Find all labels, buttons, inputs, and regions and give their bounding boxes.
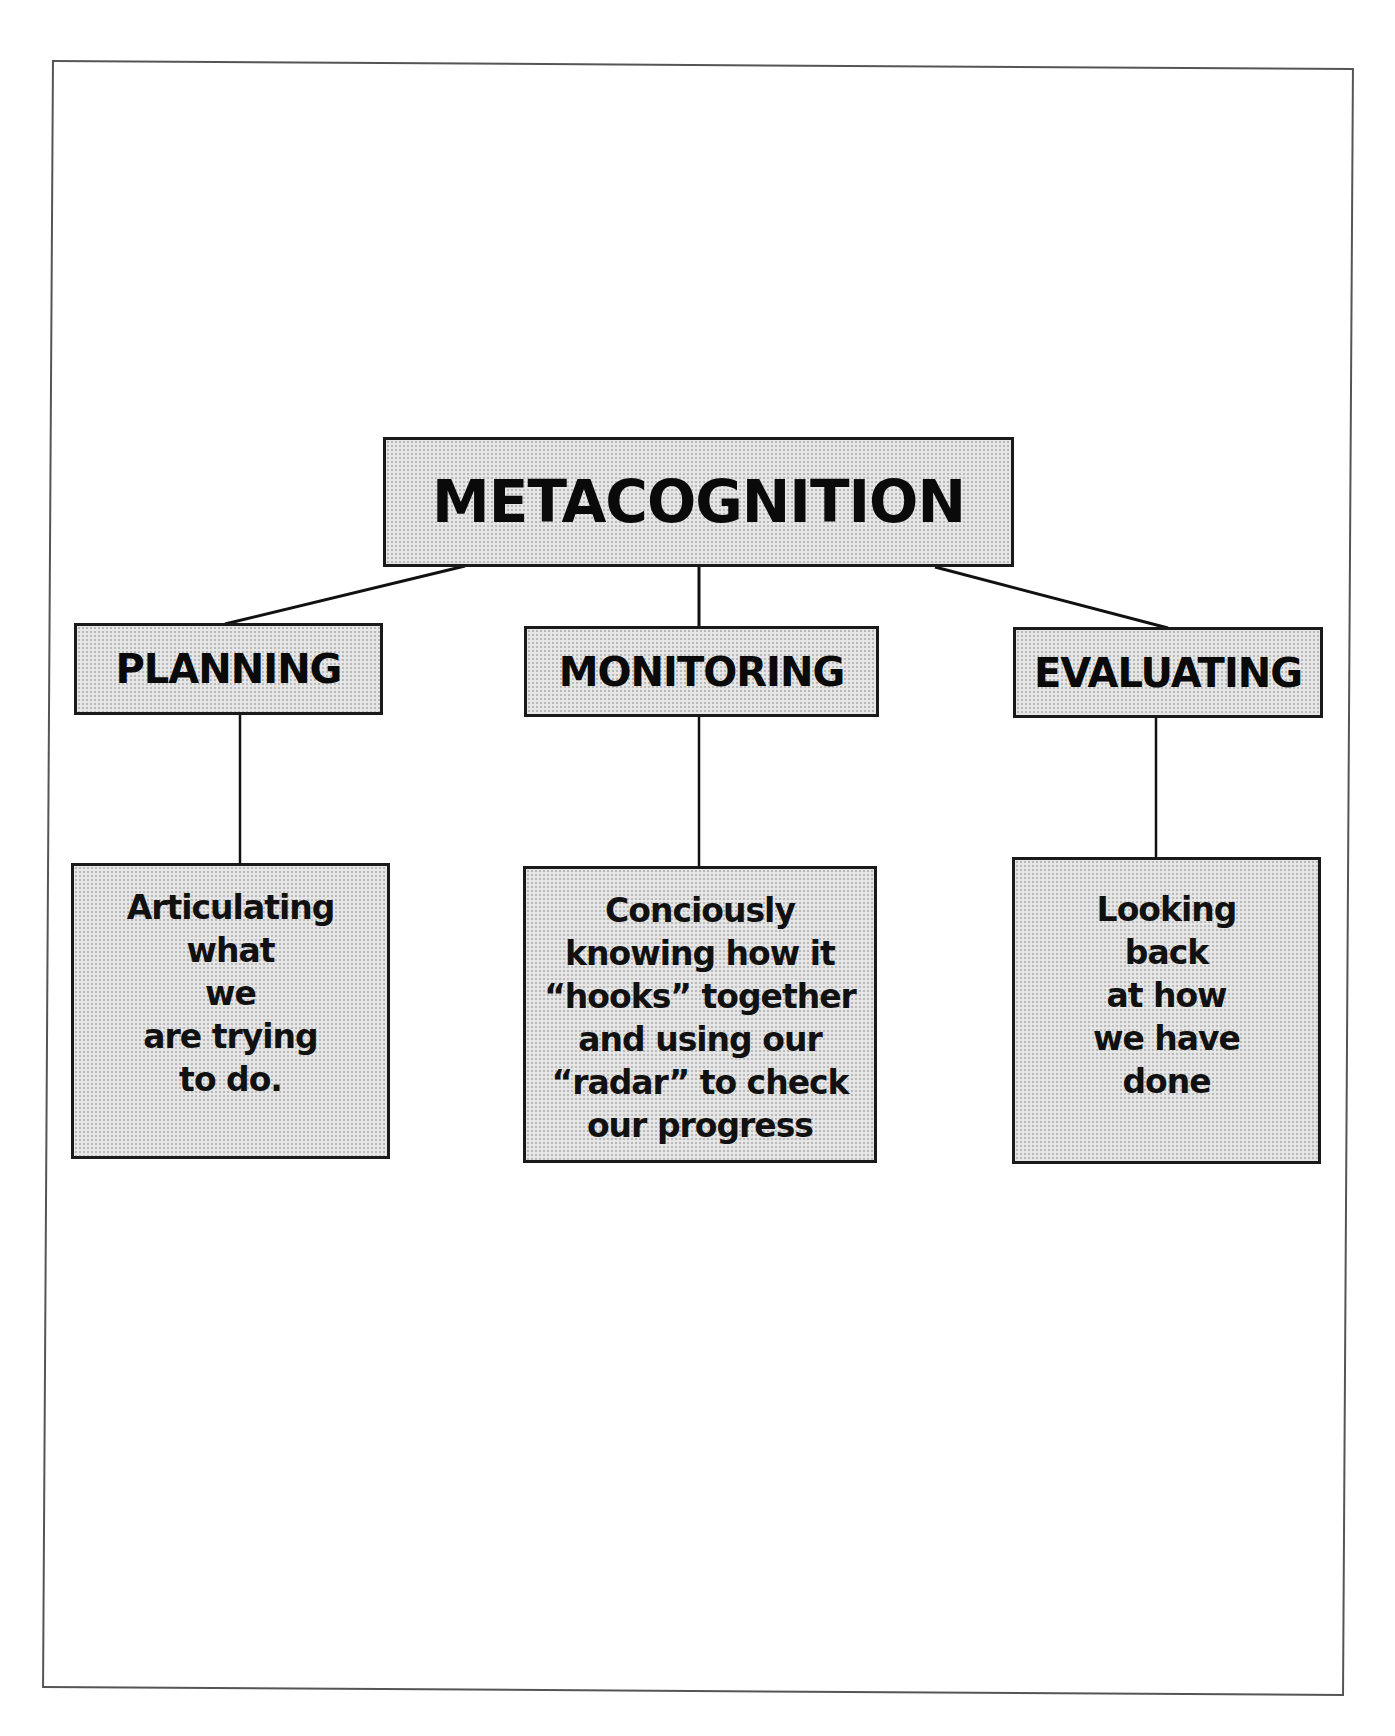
description-text-planning: Articulating what we are trying to do. xyxy=(127,886,335,1101)
root-node-metacognition: METACOGNITION xyxy=(383,437,1014,567)
root-node-label: METACOGNITION xyxy=(432,473,965,531)
category-node-planning: PLANNING xyxy=(74,623,383,715)
category-label-monitoring: MONITORING xyxy=(559,652,844,692)
description-node-evaluating: Looking back at how we have done xyxy=(1012,857,1321,1164)
category-node-evaluating: EVALUATING xyxy=(1013,627,1323,718)
category-label-evaluating: EVALUATING xyxy=(1034,653,1302,693)
description-text-evaluating: Looking back at how we have done xyxy=(1093,888,1240,1103)
category-label-planning: PLANNING xyxy=(116,649,342,689)
description-node-planning: Articulating what we are trying to do. xyxy=(71,863,390,1159)
description-node-monitoring: Conciously knowing how it “hooks” togeth… xyxy=(523,866,877,1163)
category-node-monitoring: MONITORING xyxy=(524,626,879,717)
description-text-monitoring: Conciously knowing how it “hooks” togeth… xyxy=(544,889,856,1147)
